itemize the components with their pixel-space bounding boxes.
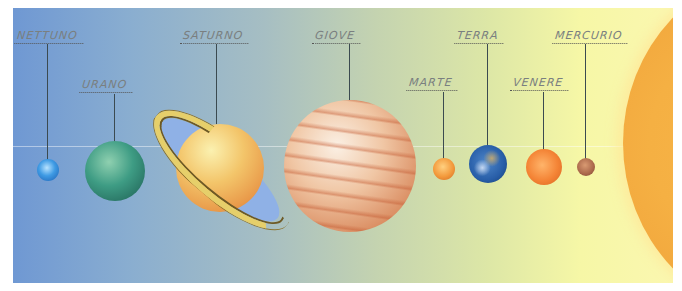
planet-uranus <box>85 141 145 201</box>
string-venus <box>543 92 544 150</box>
planet-jupiter <box>284 100 416 232</box>
planet-mars <box>433 158 455 180</box>
planet-venus <box>526 149 562 185</box>
label-mercury: MERCURIO <box>552 30 629 44</box>
string-uranus <box>114 94 115 142</box>
label-saturn: SATURNO <box>180 30 249 44</box>
planet-neptune <box>37 159 59 181</box>
string-earth <box>487 44 488 147</box>
label-neptune: NETTUNO <box>14 30 84 44</box>
string-neptune <box>47 44 48 161</box>
planet-earth <box>469 145 507 183</box>
string-mercury <box>585 44 586 159</box>
planet-mercury <box>577 158 595 176</box>
label-venus: VENERE <box>510 77 570 91</box>
label-jupiter: GIOVE <box>312 30 361 44</box>
label-mars: MARTE <box>406 77 459 91</box>
string-jupiter <box>349 44 350 102</box>
label-uranus: URANO <box>79 79 134 93</box>
solar-system-diagram: NETTUNO URANO SATURNO GIOVE MARTE TERRA … <box>13 8 673 283</box>
sun <box>623 8 673 283</box>
string-mars <box>443 92 444 160</box>
label-earth: TERRA <box>454 30 505 44</box>
string-saturn <box>216 44 217 124</box>
